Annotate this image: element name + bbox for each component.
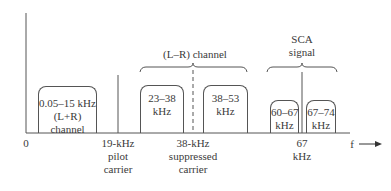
pilot-carrier-label: 19-kHz pilot carrier (98, 137, 138, 176)
band-l-plus-r: 0.05–15 kHz (L+R) channel (38, 86, 97, 133)
sca-brace (267, 63, 337, 72)
marker-label-line: carrier (163, 163, 223, 176)
band-label: 38–53 (204, 92, 247, 105)
sca-label-line: SCA (282, 33, 322, 46)
marker-label-line: suppressed (163, 150, 223, 163)
frequency-axis-label: f (347, 138, 357, 151)
band-label: kHz (141, 105, 183, 118)
band-label: 23–38 (141, 92, 183, 105)
band-23-38: 23–38 kHz (140, 85, 184, 133)
sca-carrier-label: 67 kHz (287, 137, 317, 163)
band-label: kHz (204, 105, 247, 118)
arrowhead-icon (375, 141, 382, 147)
marker-label-line: pilot (98, 150, 138, 163)
band-label: kHz (271, 119, 298, 132)
band-label: 60–67 (271, 106, 298, 119)
lmr-channel-label: (L–R) channel (163, 48, 223, 61)
marker-label-line: 19-kHz (98, 137, 138, 150)
band-label: 0.05–15 kHz (39, 97, 96, 110)
band-label: (L+R) (39, 110, 96, 123)
fm-stereo-spectrum-diagram: 0.05–15 kHz (L+R) channel 23–38 kHz 38–5… (0, 0, 391, 191)
band-60-67: 60–67 kHz (270, 100, 299, 133)
band-label: kHz (307, 119, 335, 132)
band-label: 67–74 (307, 106, 335, 119)
band-label: channel (39, 123, 96, 136)
band-38-53: 38–53 kHz (203, 85, 248, 133)
origin-label: 0 (21, 137, 31, 150)
sca-signal-label: SCA signal (282, 33, 322, 59)
marker-label-line: kHz (287, 150, 317, 163)
band-67-74: 67–74 kHz (306, 100, 336, 133)
sca-label-line: signal (282, 46, 322, 59)
marker-label-line: 38-kHz (163, 137, 223, 150)
suppressed-carrier-label: 38-kHz suppressed carrier (163, 137, 223, 176)
marker-label-line: 67 (287, 137, 317, 150)
marker-label-line: carrier (98, 163, 138, 176)
